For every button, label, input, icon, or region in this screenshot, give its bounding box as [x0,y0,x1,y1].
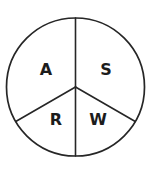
sector-label-w: W [89,110,107,129]
sector-label-r: R [50,110,62,129]
circle-diagram-container: A S R W [0,0,147,172]
sector-label-a: A [40,60,53,79]
sector-label-s: S [100,60,112,79]
circle-diagram: A S R W [0,0,147,172]
